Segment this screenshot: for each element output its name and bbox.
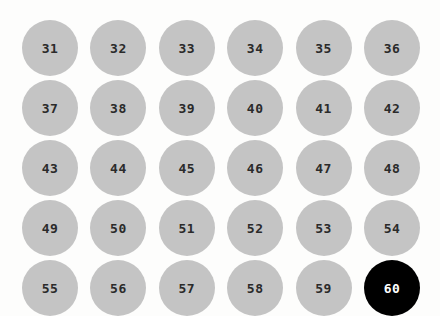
number-badge-label: 46 — [247, 162, 264, 175]
number-badge-label: 33 — [178, 42, 195, 55]
number-badge[interactable]: 37 — [22, 80, 78, 136]
number-badge[interactable]: 44 — [90, 140, 146, 196]
number-badge[interactable]: 59 — [296, 260, 352, 316]
number-badge[interactable]: 49 — [22, 200, 78, 256]
number-badge[interactable]: 35 — [296, 20, 352, 76]
number-badge-label: 45 — [178, 162, 195, 175]
number-badge-label: 49 — [42, 222, 59, 235]
number-badge-label: 32 — [110, 42, 127, 55]
number-badge[interactable]: 47 — [296, 140, 352, 196]
number-badge-label: 40 — [247, 102, 264, 115]
number-badge-label: 35 — [315, 42, 332, 55]
number-badge-label: 47 — [315, 162, 332, 175]
number-badge-label: 56 — [110, 282, 127, 295]
number-badge-label: 43 — [42, 162, 59, 175]
number-badge[interactable]: 52 — [227, 200, 283, 256]
number-badge-label: 59 — [315, 282, 332, 295]
number-badge[interactable]: 53 — [296, 200, 352, 256]
number-badge-label: 34 — [247, 42, 264, 55]
number-badge-label: 37 — [42, 102, 59, 115]
number-badge-label: 48 — [384, 162, 401, 175]
number-badge[interactable]: 33 — [159, 20, 215, 76]
number-badge[interactable]: 38 — [90, 80, 146, 136]
number-badge[interactable]: 42 — [364, 80, 420, 136]
number-badge[interactable]: 31 — [22, 20, 78, 76]
number-badge[interactable]: 32 — [90, 20, 146, 76]
number-badge[interactable]: 45 — [159, 140, 215, 196]
number-badge[interactable]: 43 — [22, 140, 78, 196]
number-badge[interactable]: 48 — [364, 140, 420, 196]
number-badge[interactable]: 54 — [364, 200, 420, 256]
number-badge-label: 60 — [384, 282, 401, 295]
number-badge-label: 38 — [110, 102, 127, 115]
number-badge-label: 51 — [178, 222, 195, 235]
number-badge[interactable]: 36 — [364, 20, 420, 76]
number-badge[interactable]: 57 — [159, 260, 215, 316]
number-badge-label: 39 — [178, 102, 195, 115]
number-badge-label: 44 — [110, 162, 127, 175]
number-badge[interactable]: 55 — [22, 260, 78, 316]
number-badge[interactable]: 51 — [159, 200, 215, 256]
number-badge-label: 57 — [178, 282, 195, 295]
number-badge[interactable]: 56 — [90, 260, 146, 316]
number-badge-label: 58 — [247, 282, 264, 295]
number-badge-label: 31 — [42, 42, 59, 55]
number-badge-label: 50 — [110, 222, 127, 235]
number-badge-label: 52 — [247, 222, 264, 235]
number-badge[interactable]: 46 — [227, 140, 283, 196]
number-badge[interactable]: 58 — [227, 260, 283, 316]
number-badge[interactable]: 50 — [90, 200, 146, 256]
number-badge[interactable]: 40 — [227, 80, 283, 136]
number-badge[interactable]: 41 — [296, 80, 352, 136]
number-badge-selected[interactable]: 60 — [364, 260, 420, 316]
number-badge-label: 41 — [315, 102, 332, 115]
number-badge-label: 36 — [384, 42, 401, 55]
number-badge-label: 54 — [384, 222, 401, 235]
number-badge-label: 42 — [384, 102, 401, 115]
number-badge-label: 55 — [42, 282, 59, 295]
number-badge[interactable]: 34 — [227, 20, 283, 76]
number-badge-label: 53 — [315, 222, 332, 235]
number-badge[interactable]: 39 — [159, 80, 215, 136]
